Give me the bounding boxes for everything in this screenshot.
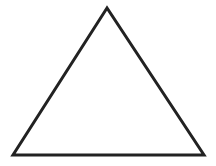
diagram-canvas (0, 0, 216, 166)
triangle-figure (0, 0, 216, 166)
triangle-shape (13, 8, 204, 155)
